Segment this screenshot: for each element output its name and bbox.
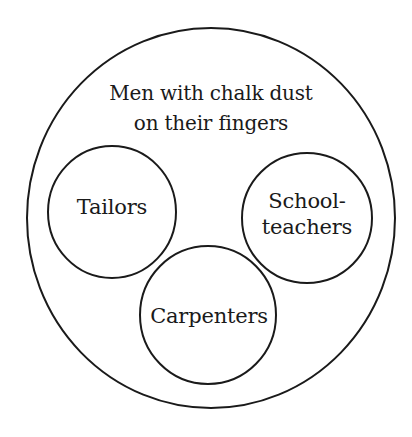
schoolteachers-label-line-1: School- [252, 188, 362, 214]
carpenters-label: Carpenters [143, 303, 275, 329]
schoolteachers-label-line-2: teachers [252, 214, 362, 240]
tailors-label: Tailors [62, 194, 162, 220]
outer-set-label-line-1: Men with chalk dust [96, 78, 326, 108]
outer-set-label: Men with chalk dust on their fingers [96, 78, 326, 138]
schoolteachers-label: School- teachers [252, 188, 362, 240]
carpenters-label-line-1: Carpenters [143, 303, 275, 329]
outer-set-label-line-2: on their fingers [96, 108, 326, 138]
tailors-label-line-1: Tailors [62, 194, 162, 220]
euler-diagram: Men with chalk dust on their fingers Tai… [0, 0, 412, 437]
